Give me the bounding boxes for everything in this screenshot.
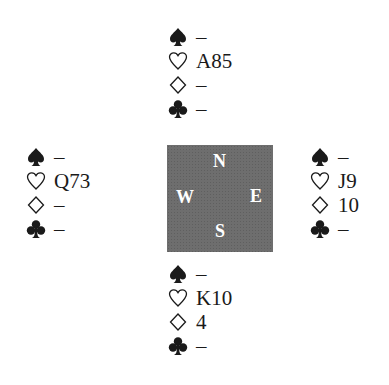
- compass-east: E: [250, 186, 262, 207]
- spade-icon: [310, 147, 330, 167]
- east-clubs-cards: –: [338, 217, 349, 241]
- west-diamonds-cards: –: [54, 193, 65, 217]
- north-diamonds-cards: –: [196, 73, 207, 97]
- west-spades-row: –: [26, 145, 90, 169]
- north-hearts-row: A85: [168, 49, 232, 73]
- west-clubs-cards: –: [54, 217, 65, 241]
- east-diamonds-row: 10: [310, 193, 359, 217]
- diamond-icon: [168, 75, 188, 95]
- north-hearts-cards: A85: [196, 49, 232, 73]
- east-clubs-row: –: [310, 217, 359, 241]
- spade-icon: [168, 27, 188, 47]
- west-diamonds-row: –: [26, 193, 90, 217]
- north-clubs-cards: –: [196, 97, 207, 121]
- spade-icon: [168, 264, 188, 284]
- diamond-icon: [310, 195, 330, 215]
- north-diamonds-row: –: [168, 73, 232, 97]
- west-spades-cards: –: [54, 145, 65, 169]
- compass-table: N W E S: [167, 145, 273, 252]
- north-spades-cards: –: [196, 25, 207, 49]
- east-diamonds-cards: 10: [338, 193, 359, 217]
- east-spades-row: –: [310, 145, 359, 169]
- club-icon: [168, 99, 188, 119]
- heart-icon: [168, 288, 188, 308]
- south-clubs-row: –: [168, 334, 232, 358]
- north-spades-row: –: [168, 25, 232, 49]
- east-hearts-cards: J9: [338, 169, 357, 193]
- club-icon: [310, 219, 330, 239]
- east-hearts-row: J9: [310, 169, 359, 193]
- east-spades-cards: –: [338, 145, 349, 169]
- south-hearts-cards: K10: [196, 286, 232, 310]
- south-spades-row: –: [168, 262, 232, 286]
- compass-south: S: [215, 221, 225, 242]
- south-clubs-cards: –: [196, 334, 207, 358]
- north-hand: – A85 – –: [168, 25, 232, 121]
- south-hand: – K10 4 –: [168, 262, 232, 358]
- club-icon: [26, 219, 46, 239]
- diamond-icon: [168, 312, 188, 332]
- club-icon: [168, 336, 188, 356]
- heart-icon: [310, 171, 330, 191]
- west-hand: – Q73 – –: [26, 145, 90, 241]
- heart-icon: [168, 51, 188, 71]
- west-hearts-row: Q73: [26, 169, 90, 193]
- spade-icon: [26, 147, 46, 167]
- compass-west: W: [176, 187, 194, 208]
- south-diamonds-cards: 4: [196, 310, 207, 334]
- south-diamonds-row: 4: [168, 310, 232, 334]
- south-hearts-row: K10: [168, 286, 232, 310]
- compass-north: N: [213, 151, 226, 172]
- heart-icon: [26, 171, 46, 191]
- south-spades-cards: –: [196, 262, 207, 286]
- west-hearts-cards: Q73: [54, 169, 90, 193]
- diamond-icon: [26, 195, 46, 215]
- north-clubs-row: –: [168, 97, 232, 121]
- east-hand: – J9 10 –: [310, 145, 359, 241]
- west-clubs-row: –: [26, 217, 90, 241]
